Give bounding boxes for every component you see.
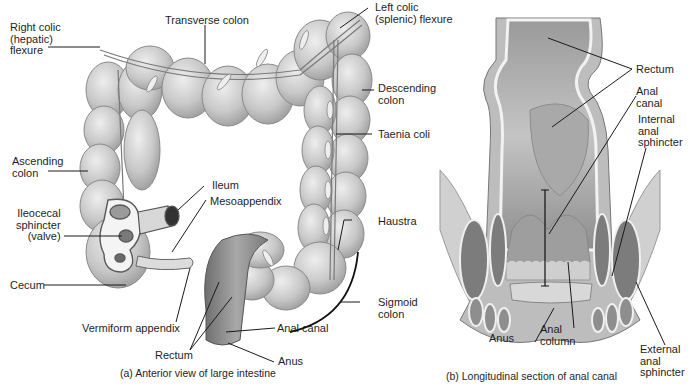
label-internal-anal-sphincter: Internal anal sphincter — [638, 114, 683, 149]
ileum-drawing — [138, 206, 179, 234]
label-sigmoid-colon: Sigmoid colon — [378, 297, 418, 320]
appendix-drawing — [136, 256, 193, 270]
label-anus-b: Anus — [489, 333, 514, 345]
label-anal-canal-a: Anal canal — [277, 323, 328, 335]
caption-figure-a: (a) Anterior view of large intestine — [120, 367, 276, 379]
label-ileum: Ileum — [212, 180, 239, 192]
label-vermiform-appendix: Vermiform appendix — [82, 323, 180, 335]
caption-figure-b: (b) Longitudinal section of anal canal — [446, 370, 617, 382]
label-transverse-colon: Transverse colon — [165, 15, 249, 27]
label-rectum-b: Rectum — [636, 64, 674, 76]
label-left-colic-flexure: Left colic (splenic) flexure — [375, 2, 453, 25]
label-mesoappendix: Mesoappendix — [210, 196, 282, 208]
label-rectum-a: Rectum — [155, 350, 193, 362]
label-cecum: Cecum — [10, 280, 45, 292]
label-external-anal-sphincter: External anal sphincter — [640, 344, 685, 379]
label-haustra: Haustra — [378, 216, 417, 228]
label-descending-colon: Descending colon — [378, 83, 436, 106]
label-ascending-colon: Ascending colon — [12, 156, 63, 179]
label-ileocecal-sphincter: Ileocecal sphincter (valve) — [16, 208, 61, 243]
label-right-colic-flexure: Right colic (hepatic) flexure — [10, 22, 61, 57]
label-anus-a: Anus — [278, 356, 303, 368]
label-anal-column: Anal column — [540, 324, 575, 347]
label-taenia-coli: Taenia coli — [378, 129, 430, 141]
label-anal-canal-b: Anal canal — [636, 86, 662, 109]
